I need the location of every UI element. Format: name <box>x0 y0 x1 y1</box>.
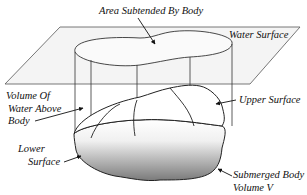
lower-surface-arrow <box>64 156 81 162</box>
label-water-surface: Water Surface <box>229 29 289 40</box>
label-volume-above-1: Volume Of <box>6 90 52 101</box>
label-lower-surface-1: Lower <box>17 143 46 154</box>
label-upper-surface: Upper Surface <box>239 94 301 105</box>
submerged-body-arrow <box>218 169 232 176</box>
label-lower-surface-2: Surface <box>28 156 60 167</box>
submerged-body-lower-surface <box>74 120 225 181</box>
label-submerged-body-1: Submerged Body <box>233 169 304 180</box>
buoyancy-diagram: Area Subtended By Body Water Surface Vol… <box>0 0 307 195</box>
label-volume-above-3: Body <box>8 115 30 126</box>
label-submerged-body-2: Volume V <box>233 182 275 193</box>
label-volume-above-2: Water Above <box>8 103 62 114</box>
label-area-subtended: Area Subtended By Body <box>98 5 204 16</box>
